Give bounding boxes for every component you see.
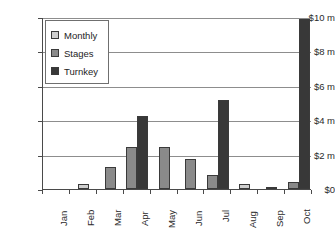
- bar-monthly[interactable]: [239, 184, 250, 189]
- bar-group: [258, 18, 285, 189]
- x-tick-mark: [96, 190, 97, 194]
- x-tick-mark: [203, 190, 204, 194]
- bar-group: [204, 18, 231, 189]
- legend-item-turnkey[interactable]: Turnkey: [51, 62, 104, 80]
- x-tick-mark: [230, 190, 231, 194]
- legend-swatch-icon: [51, 49, 59, 57]
- x-tick-mark: [177, 190, 178, 194]
- bar-group: [231, 18, 258, 189]
- x-tick-mark: [311, 190, 312, 194]
- x-tick-mark: [284, 190, 285, 194]
- x-tick-label: Aug: [248, 211, 258, 228]
- x-tick-label: Mar: [113, 210, 123, 226]
- legend-swatch-icon: [51, 67, 59, 75]
- bar-turnkey[interactable]: [218, 100, 229, 189]
- legend-swatch-icon: [51, 31, 59, 39]
- x-tick-label: Jul: [221, 210, 231, 222]
- bar-monthly[interactable]: [78, 184, 89, 189]
- bar-stages[interactable]: [207, 175, 218, 189]
- x-tick-label: Sep: [275, 210, 285, 227]
- legend: Monthly Stages Turnkey: [45, 20, 109, 84]
- legend-label: Stages: [64, 48, 94, 59]
- x-tick-label: Jan: [59, 211, 69, 226]
- x-tick-label: Oct: [302, 209, 312, 224]
- bar-stages[interactable]: [126, 147, 137, 189]
- legend-label: Turnkey: [64, 66, 98, 77]
- x-tick-label: Feb: [86, 210, 96, 226]
- x-tick-label: May: [167, 210, 177, 228]
- bar-chart-screenshot: $10 m $8 m $6 m $4 m $2 m $0: [0, 0, 335, 232]
- x-tick-mark: [42, 190, 43, 194]
- legend-item-stages[interactable]: Stages: [51, 44, 104, 62]
- bar-turnkey[interactable]: [299, 19, 310, 189]
- bar-stages[interactable]: [159, 147, 170, 189]
- bar-group: [124, 18, 151, 189]
- bar-group: [178, 18, 205, 189]
- bar-group: [285, 18, 312, 189]
- bar-stages[interactable]: [105, 167, 116, 189]
- x-tick-mark: [69, 190, 70, 194]
- legend-item-monthly[interactable]: Monthly: [51, 26, 104, 44]
- bar-monthly[interactable]: [266, 187, 277, 189]
- bar-turnkey[interactable]: [137, 116, 148, 189]
- x-tick-label: Apr: [140, 211, 150, 226]
- bar-stages[interactable]: [185, 159, 196, 189]
- x-tick-mark: [257, 190, 258, 194]
- x-tick-label: Jun: [194, 211, 204, 226]
- legend-label: Monthly: [64, 30, 97, 41]
- x-tick-mark: [150, 190, 151, 194]
- bar-stages[interactable]: [288, 182, 299, 189]
- bar-group: [151, 18, 178, 189]
- x-tick-mark: [123, 190, 124, 194]
